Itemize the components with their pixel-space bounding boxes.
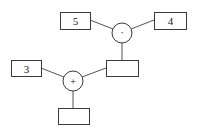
input-box-4: 4 xyxy=(155,13,187,30)
add-operator: + xyxy=(70,75,76,87)
edge-5-to-multiply xyxy=(90,20,113,29)
product-result-box xyxy=(107,61,139,77)
edge-3-to-add xyxy=(41,68,64,77)
sum-result-box xyxy=(59,109,90,125)
input-value-5: 5 xyxy=(73,15,79,27)
input-box-5: 5 xyxy=(61,13,91,30)
multiply-node: · xyxy=(112,23,132,43)
expression-diagram: 5 4 · 3 + xyxy=(0,0,199,130)
input-value-4: 4 xyxy=(168,15,174,27)
edge-4-to-multiply xyxy=(131,20,154,29)
edge-product-to-add xyxy=(82,68,106,77)
input-box-3: 3 xyxy=(12,61,42,77)
input-value-3: 3 xyxy=(24,63,30,75)
multiply-operator: · xyxy=(120,26,124,38)
add-node: + xyxy=(63,71,83,91)
